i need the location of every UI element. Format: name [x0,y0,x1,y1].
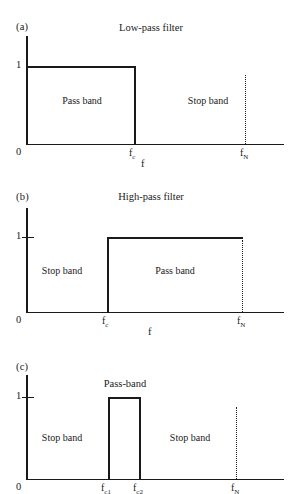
x-tick-cutoff-upper-c-sub: c2 [136,488,143,494]
panel-band-pass: (c) Pass-band 1 0 Stop band Stop band fc… [0,345,292,494]
x-axis-label-b: f [148,326,152,337]
y-tick-label-one-a: 1 [16,59,21,70]
nyquist-dotted-line-b [242,240,243,312]
y-tick-label-one-b: 1 [16,230,21,241]
response-cutoff-lower-edge-c [108,397,110,480]
y-tick-label-zero-a: 0 [16,146,21,157]
y-tick-mark-one-b [22,237,34,238]
y-axis-b [26,208,28,313]
response-cutoff-edge-b [107,237,109,313]
x-axis-label-a: f [141,158,145,169]
response-plateau-a [26,66,135,68]
panel-label-b: (b) [16,191,29,202]
x-tick-label-cutoff-b: fc [102,315,108,329]
panel-title-pass-band: Pass-band [79,378,171,389]
x-tick-nyquist-a-sub: N [243,153,248,161]
x-tick-cutoff-lower-c-sub: c1 [104,488,111,494]
y-tick-label-one-c: 1 [16,390,21,401]
y-tick-mark-one-c [22,397,34,398]
region-label-stop-band-high-c: Stop band [150,432,230,443]
panel-low-pass: (a) Low-pass filter 1 0 Pass band Stop b… [0,0,292,170]
x-tick-cutoff-a-sub: c [132,153,135,161]
nyquist-dotted-line-c [236,407,237,479]
x-tick-label-cutoff-upper-c: fc2 [133,482,143,494]
x-tick-label-nyquist-b: fN [237,315,245,329]
panel-title-high-pass: High-pass filter [86,191,216,202]
panel-label-c: (c) [16,361,28,372]
region-label-stop-band-a: Stop band [168,95,248,106]
x-tick-cutoff-b-sub: c [105,321,108,329]
y-axis-a [26,36,28,145]
x-axis-b [26,312,284,313]
y-tick-label-zero-c: 0 [16,481,21,492]
x-tick-label-nyquist-c: fN [231,482,239,494]
x-tick-label-nyquist-a: fN [240,147,248,161]
y-tick-label-zero-b: 0 [16,314,21,325]
x-axis-c [26,479,284,480]
region-label-pass-band-a: Pass band [42,95,122,106]
panel-title-low-pass: Low-pass filter [86,22,216,33]
panel-label-a: (a) [16,21,28,32]
region-label-stop-band-low-c: Stop band [22,432,102,443]
region-label-pass-band-b: Pass band [135,265,215,276]
x-axis-a [26,144,284,145]
response-cutoff-upper-edge-c [139,397,141,480]
response-plateau-b [107,237,243,239]
x-tick-label-cutoff-a: fc [129,147,135,161]
panel-high-pass: (b) High-pass filter 1 0 Stop band Pass … [0,170,292,345]
y-axis-c [26,375,28,480]
response-plateau-c [108,397,141,399]
x-tick-nyquist-b-sub: N [240,321,245,329]
x-tick-nyquist-c-sub: N [234,488,239,494]
response-cutoff-edge-a [134,66,136,145]
x-tick-label-cutoff-lower-c: fc1 [101,482,111,494]
nyquist-dotted-line-a [245,75,246,144]
region-label-stop-band-b: Stop band [22,265,102,276]
